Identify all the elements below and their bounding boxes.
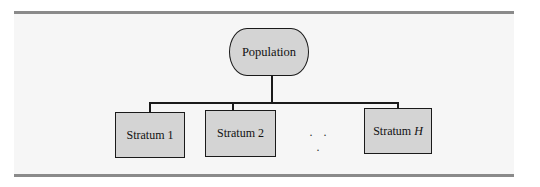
top-rule [14, 11, 514, 14]
ellipsis: . . . [303, 125, 337, 155]
population-node: Population [229, 28, 309, 76]
bottom-rule [14, 174, 514, 177]
stratum-h-variable: H [414, 124, 423, 139]
branch-bar [149, 102, 398, 104]
stratum-h-node: StratumH [364, 108, 432, 154]
stratum-1-node: Stratum 1 [115, 112, 185, 158]
population-label: Population [242, 45, 296, 60]
root-connector [271, 75, 273, 103]
stratum-2-label: Stratum 2 [217, 126, 264, 141]
stratum-2-node: Stratum 2 [205, 110, 276, 157]
stratum-1-label: Stratum 1 [127, 128, 174, 143]
stratum-h-label: Stratum [373, 124, 411, 139]
